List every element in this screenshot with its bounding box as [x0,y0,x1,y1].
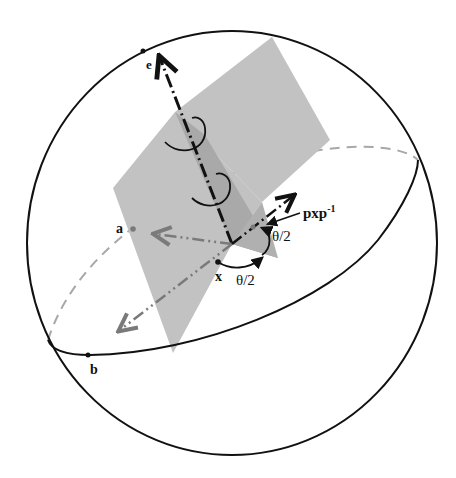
label-pxp: pxp-1 [303,203,336,221]
theta-arc-x [218,258,262,268]
label-pxp-superscript: -1 [327,203,335,214]
pxp-pointer-arrow [268,213,300,224]
sphere-diagram: e a b x θ/2 θ/2 pxp-1 [0,0,456,478]
label-theta-half-x: θ/2 [236,272,255,288]
point-e [141,49,146,54]
label-pxp-base: pxp [303,205,327,221]
label-x: x [215,269,222,284]
label-e: e [146,57,152,72]
point-pxp [251,225,256,230]
label-theta-half-pxp: θ/2 [272,228,291,244]
label-b: b [90,362,98,377]
point-a [130,226,136,232]
point-b [86,353,91,358]
point-x [215,259,221,265]
label-a: a [116,221,123,236]
